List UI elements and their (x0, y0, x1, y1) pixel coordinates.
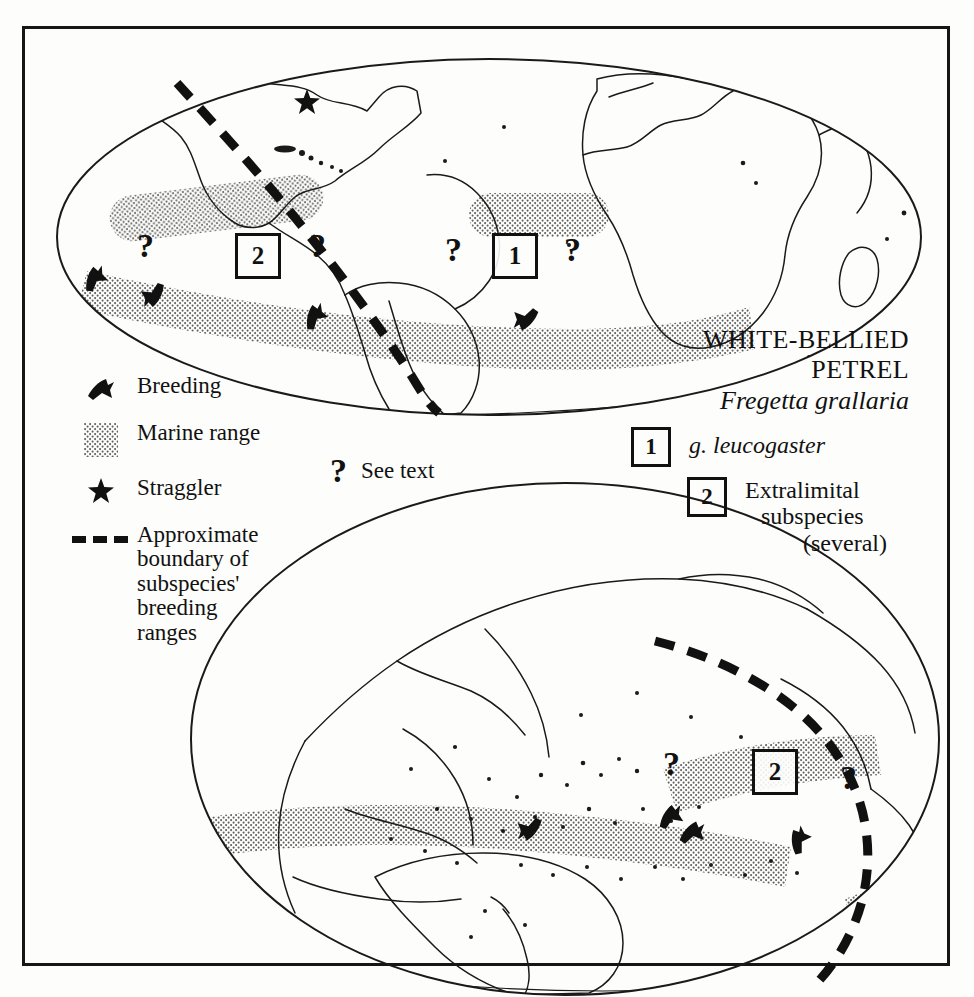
subspecies-key-row-1: 1 g. leucogaster (631, 427, 931, 467)
legend-label-see-text: See text (361, 458, 434, 484)
page-frame: 2 1 ? ? ? ? (22, 26, 950, 966)
question-mark-icon: ? (137, 229, 154, 263)
subspecies-label-2-line-2: subspecies (761, 503, 887, 529)
question-mark-icon: ? (330, 454, 347, 488)
question-mark-icon: ? (309, 229, 326, 263)
legend: Breeding Marine r (65, 374, 365, 664)
scientific-name: Fregetta grallaria (579, 385, 909, 416)
legend-item-marine-range: Marine range (65, 421, 365, 457)
question-mark-icon: ? (840, 761, 857, 795)
legend-label-marine-range: Marine range (137, 421, 260, 445)
species-title-block: WHITE-BELLIED PETREL Fregetta grallaria (579, 325, 909, 416)
legend-item-see-text: ? See text (330, 454, 434, 488)
star-icon (65, 476, 137, 504)
subspecies-box-1: 1 (631, 427, 671, 467)
subspecies-label-2-line-3: (several) (803, 530, 887, 556)
boundary-line-5: ranges (137, 620, 197, 645)
page-title-line-2: PETREL (579, 355, 909, 385)
subspecies-box-2: 2 (235, 233, 281, 279)
question-mark-icon: ? (445, 233, 462, 267)
subspecies-box-2: 2 (752, 749, 798, 795)
boundary-line-4: breeding (137, 595, 217, 620)
boundary-line-3: subspecies' (137, 571, 240, 596)
legend-item-breeding: Breeding (65, 374, 365, 402)
dashed-line-icon (65, 523, 137, 544)
marine-range-band (185, 735, 933, 941)
subspecies-box-2: 2 (687, 477, 727, 517)
boundary-line-1: Approximate (137, 522, 258, 547)
subspecies-label-1: g. leucogaster (689, 427, 825, 458)
breeding-bird-icon (676, 818, 708, 847)
marine-range-swatch-icon (65, 421, 137, 457)
question-mark-icon: ? (564, 233, 581, 267)
subspecies-label-2: Extralimital subspecies (several) (745, 477, 887, 556)
legend-label-boundary: Approximate boundary of subspecies' bree… (137, 523, 258, 645)
legend-label-breeding: Breeding (137, 374, 221, 398)
breeding-bird-icon (65, 374, 137, 402)
subspecies-box-1: 1 (492, 233, 538, 279)
question-mark-icon: ? (663, 747, 680, 781)
subspecies-boundary-line (655, 641, 868, 987)
legend-item-straggler: Straggler (65, 476, 365, 504)
map-page: 2 1 ? ? ? ? (0, 0, 974, 997)
subspecies-key: 1 g. leucogaster 2 Extralimital subspeci… (631, 427, 931, 566)
legend-label-straggler: Straggler (137, 476, 221, 500)
boundary-line-2: boundary of (137, 546, 249, 571)
subspecies-key-row-2: 2 Extralimital subspecies (several) (687, 477, 931, 556)
page-title-line-1: WHITE-BELLIED (579, 325, 909, 355)
breeding-bird-icon (510, 306, 542, 335)
straggler-star-icon (294, 89, 320, 115)
legend-item-boundary: Approximate boundary of subspecies' bree… (65, 523, 365, 645)
breeding-bird-icon (513, 815, 547, 846)
subspecies-label-2-line-1: Extralimital (745, 477, 860, 503)
